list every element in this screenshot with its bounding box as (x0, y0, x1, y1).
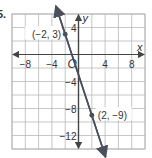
y-tick-label: −8 (65, 104, 77, 115)
point-label: (2, −9) (98, 110, 127, 121)
data-point (63, 32, 68, 37)
data-point (89, 113, 94, 118)
chart: xyO−8−4484−4−8−12 (−2, 3)(2, −9) (0, 0, 152, 158)
y-tick-label: −4 (65, 77, 77, 88)
x-axis-label: x (136, 41, 143, 53)
x-tick-label: −8 (20, 59, 32, 70)
x-tick-label: −4 (46, 59, 58, 70)
x-tick-label: 8 (129, 59, 135, 70)
y-tick-label: 4 (71, 23, 77, 34)
x-tick-label: 4 (102, 59, 108, 70)
y-tick-label: −12 (60, 131, 77, 142)
point-label: (−2, 3) (32, 29, 61, 40)
